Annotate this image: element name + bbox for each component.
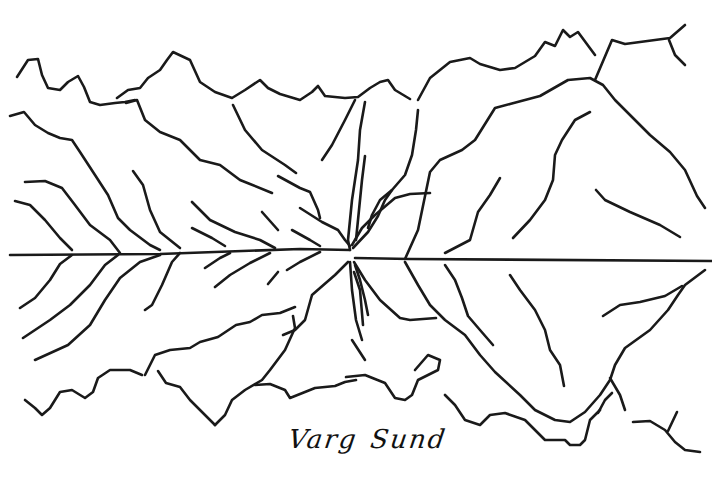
refl-slope-right-c <box>603 286 682 316</box>
slope-right-a <box>445 178 500 253</box>
ridge-far-center <box>117 52 410 100</box>
slope-left-h <box>300 208 350 246</box>
refl-slope-right-b <box>510 275 564 386</box>
slope-left-i <box>292 230 320 246</box>
slope-left-b <box>15 201 72 250</box>
refl-slope-left-g <box>268 272 278 284</box>
refl-skyline-far-right-spur <box>668 412 677 431</box>
ridge-far-right-spur <box>669 40 685 65</box>
slope-right-b <box>513 112 590 238</box>
ridge-far-right <box>418 30 595 100</box>
caption-word-1: Varg <box>287 424 360 454</box>
refl-skyline-right <box>445 395 600 445</box>
refl-center-spoke-f <box>352 340 365 360</box>
mountain-reflection-drawing <box>0 0 712 494</box>
refl-slope-left-d <box>145 253 180 310</box>
ridge-far-right-peak <box>595 25 685 80</box>
caption: Varg Sund <box>285 424 461 464</box>
waterline-right <box>355 258 712 261</box>
refl-ridge-mid-left-2 <box>25 370 142 415</box>
slope-center-1 <box>233 105 296 173</box>
refl-skyline-center-b <box>346 355 440 400</box>
slope-left-d <box>192 202 275 248</box>
refl-slope-left-a <box>20 255 72 308</box>
refl-slope-left-e <box>205 253 230 268</box>
refl-skyline-center <box>255 380 356 398</box>
refl-ridge-right-front <box>405 262 705 422</box>
refl-slope-left-f <box>215 253 270 287</box>
ridge-right-left-edge <box>368 110 418 228</box>
refl-slope-left-c <box>35 255 160 360</box>
slope-center-2 <box>322 100 355 160</box>
refl-skyline-far-right <box>633 421 700 452</box>
slope-left-g <box>278 176 320 218</box>
caption-word-2: Sund <box>369 424 449 454</box>
refl-ridge-center-a <box>158 371 215 425</box>
ink-strokes <box>10 25 712 452</box>
refl-slope-left-h <box>287 252 320 270</box>
slope-left-e <box>192 228 225 246</box>
slope-right-c <box>596 190 680 237</box>
refl-center-spoke-a <box>283 262 348 335</box>
slope-left-f <box>262 212 278 230</box>
refl-slope-right-a <box>445 265 493 345</box>
ridge-mid-center <box>126 100 272 193</box>
